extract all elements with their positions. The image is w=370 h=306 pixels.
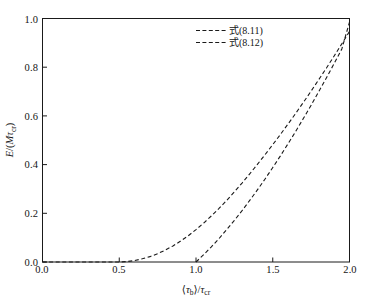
x-tick-label: 2.0 (343, 264, 356, 275)
energy-symbol: E (4, 151, 15, 157)
legend-item: 式(8.11) (196, 25, 316, 36)
tau-subscript-cr: cr (204, 288, 210, 297)
legend-label: 式(8.12) (229, 37, 263, 48)
y-tick-label: 0.2 (16, 208, 38, 219)
dashed-line-icon (196, 42, 226, 43)
series-line-1 (43, 31, 350, 262)
moment-symbol: M (4, 136, 15, 145)
chart-figure: 0.0 0.5 1.0 1.5 2.0 0.0 0.2 0.4 0.6 0.8 … (0, 0, 370, 306)
legend-item: 式(8.12) (196, 37, 316, 48)
dashed-line-icon (196, 30, 226, 31)
y-tick-label: 0.4 (16, 159, 38, 170)
chart-legend: 式(8.11) 式(8.12) (196, 25, 316, 49)
y-axis-ticks (43, 19, 48, 263)
paren-close: ) (4, 123, 15, 127)
x-tick-label: 1.5 (266, 264, 279, 275)
y-tick-label: 0.6 (16, 111, 38, 122)
y-tick-label: 0.8 (16, 62, 38, 73)
tau-subscript-cr: cr (9, 126, 18, 132)
y-tick-label: 0.0 (16, 257, 38, 268)
x-tick-label: 1.0 (189, 264, 202, 275)
slash-paren-open: /( (4, 145, 15, 151)
y-axis-title: E/(Mτcr) (4, 123, 17, 158)
plot-frame (43, 19, 350, 263)
x-axis-title: ⟨τb⟩/τcr (182, 283, 210, 297)
x-tick-label: 0.5 (112, 264, 125, 275)
series-line-2 (196, 22, 350, 262)
y-tick-label: 1.0 (16, 14, 38, 25)
legend-label: 式(8.11) (229, 25, 263, 36)
tau-symbol: τ (4, 132, 15, 136)
data-series-group (43, 22, 350, 262)
